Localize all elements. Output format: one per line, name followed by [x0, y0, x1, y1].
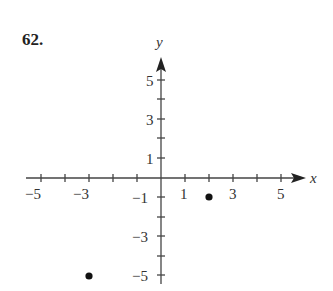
svg-text:5: 5 — [146, 73, 154, 89]
svg-text:1: 1 — [146, 151, 154, 167]
svg-text:−5: −5 — [25, 186, 41, 202]
y-axis-label: y — [154, 34, 163, 50]
svg-text:3: 3 — [229, 186, 237, 202]
svg-text:−5: −5 — [132, 268, 148, 284]
svg-text:1: 1 — [180, 186, 188, 202]
x-axis-label: x — [309, 170, 317, 186]
coordinate-plane: x y −5 −3 1 3 5 5 3 1 −1 −3 −5 — [0, 0, 333, 291]
data-point — [205, 193, 212, 200]
svg-text:−3: −3 — [132, 229, 148, 245]
svg-text:3: 3 — [146, 112, 154, 128]
data-point — [85, 272, 92, 279]
svg-text:5: 5 — [277, 186, 285, 202]
svg-text:−1: −1 — [132, 190, 148, 206]
svg-text:−3: −3 — [73, 186, 89, 202]
x-tick-labels: −5 −3 1 3 5 — [25, 186, 285, 202]
